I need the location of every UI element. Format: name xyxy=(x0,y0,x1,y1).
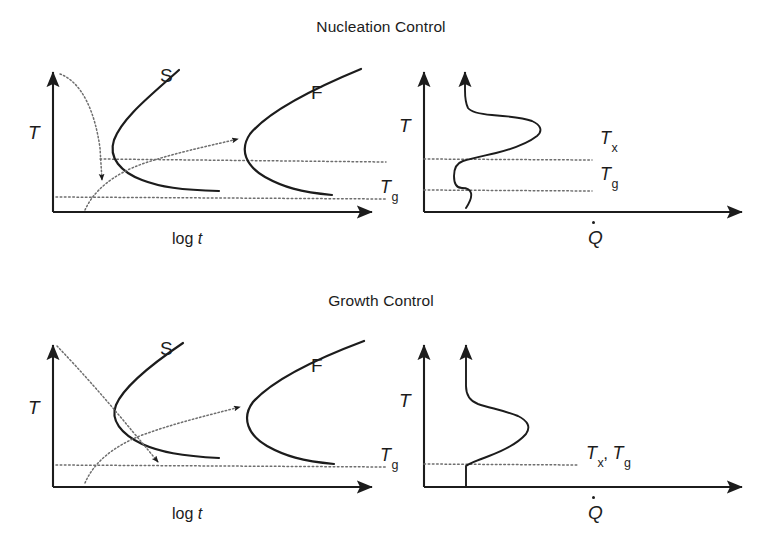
tg-base: T xyxy=(612,443,623,463)
logt-text: log xyxy=(172,230,198,247)
q-letter: Q xyxy=(588,502,603,523)
qdot-symbol: Q xyxy=(588,228,603,247)
heating-path-arrow xyxy=(85,407,240,483)
y-axis-label-temperature-bottom-left: T xyxy=(28,398,40,417)
qdot-symbol: Q xyxy=(588,503,603,522)
x-axis-label-heatflow-top: Q xyxy=(588,228,603,247)
dsc-plot-growth xyxy=(424,345,742,487)
ttt-curve-s xyxy=(113,70,219,191)
x-axis-label-heatflow-bottom: Q xyxy=(588,503,603,522)
ttt-curve-label-s-top: S xyxy=(160,66,173,85)
tg-base: T xyxy=(380,445,391,465)
tx-base: T xyxy=(586,443,597,463)
tg-subscript: g xyxy=(392,190,399,204)
tx-level-line xyxy=(424,159,592,160)
cooling-path-arrow xyxy=(57,346,158,462)
ttt-plot-nucleation xyxy=(53,69,386,212)
tx-label-top-right: Tx xyxy=(600,129,617,151)
logt-text: log xyxy=(172,505,198,522)
q-letter: Q xyxy=(588,227,603,248)
tg-level-line xyxy=(424,190,592,191)
tx-tg-level-line xyxy=(424,464,578,465)
diagram-linework xyxy=(0,0,762,551)
figure-root: Nucleation Control Growth Control xyxy=(0,0,762,551)
tg-subscript: g xyxy=(624,456,631,470)
ttt-plot-growth xyxy=(53,341,386,487)
cooling-path-arrow xyxy=(60,74,102,180)
heating-path-arrow xyxy=(85,139,238,210)
dsc-signal-trace xyxy=(466,352,528,487)
tx-tg-label-bottom-right: Tx, Tg xyxy=(586,444,630,466)
ttt-curve-label-f-top: F xyxy=(311,83,323,102)
tg-level-line xyxy=(56,465,386,467)
logt-italic-t: t xyxy=(198,505,202,522)
tx-subscript: x xyxy=(612,141,618,155)
tg-subscript: g xyxy=(612,177,619,191)
logt-italic-t: t xyxy=(198,230,202,247)
y-axis-label-temperature-bottom-right: T xyxy=(399,391,411,410)
dsc-plot-nucleation xyxy=(424,72,742,212)
tx-base: T xyxy=(600,128,611,148)
tg-label-top-left: Tg xyxy=(380,178,398,200)
ttt-curve-f xyxy=(247,341,364,464)
tx-level-line xyxy=(100,159,386,162)
dsc-signal-trace xyxy=(454,78,540,208)
ttt-curve-label-f-bottom: F xyxy=(311,356,323,375)
tg-label-top-right: Tg xyxy=(600,165,618,187)
tg-base: T xyxy=(600,164,611,184)
x-axis-label-logt-bottom: log t xyxy=(172,506,202,522)
tx-subscript: x xyxy=(598,456,604,470)
y-axis-label-temperature-top-left: T xyxy=(28,123,40,142)
y-axis-label-temperature-top-right: T xyxy=(399,116,411,135)
ttt-curve-s xyxy=(114,343,219,458)
tg-level-line xyxy=(56,197,386,199)
tg-label-bottom-left: Tg xyxy=(380,446,398,468)
ttt-curve-f xyxy=(245,69,361,195)
x-axis-label-logt-top: log t xyxy=(172,231,202,247)
ttt-curve-label-s-bottom: S xyxy=(160,339,173,358)
tg-base: T xyxy=(380,177,391,197)
tg-subscript: g xyxy=(392,458,399,472)
